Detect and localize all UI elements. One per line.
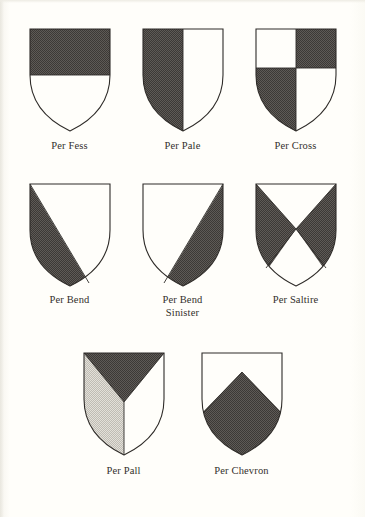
- shield-grid: Per Fess Per Pale: [0, 0, 365, 517]
- per-chevron-caption: Per Chevron: [214, 465, 268, 478]
- shield-row-1: Per Fess Per Pale: [0, 28, 365, 153]
- shield-cell-per-fess: Per Fess: [13, 28, 126, 153]
- shield-cell-per-chevron: Per Chevron: [183, 352, 301, 478]
- shield-cell-per-pall: Per Pall: [65, 352, 183, 478]
- per-saltire-shield: [255, 183, 337, 287]
- per-bend-caption: Per Bend: [50, 294, 90, 307]
- per-fess-shield: [29, 28, 111, 132]
- per-chevron-shield: [201, 352, 283, 456]
- per-fess-chief: [29, 28, 111, 75]
- per-saltire-caption: Per Saltire: [273, 294, 319, 307]
- per-fess-caption: Per Fess: [51, 140, 88, 153]
- shield-cell-per-saltire: Per Saltire: [239, 183, 352, 319]
- per-cross-caption: Per Cross: [275, 140, 317, 153]
- per-cross-shield: [255, 28, 337, 132]
- shield-cell-per-pale: Per Pale: [126, 28, 239, 153]
- shield-cell-per-bend-sinister: Per Bend Sinister: [126, 183, 239, 319]
- shield-row-2: Per Bend Per Bend Sinister: [0, 183, 365, 319]
- per-cross-quarter-2: [296, 28, 337, 68]
- shield-cell-per-bend: Per Bend: [13, 183, 126, 319]
- per-pale-caption: Per Pale: [165, 140, 201, 153]
- per-bend-sinister-shield: [142, 183, 224, 287]
- per-pall-shield: [83, 352, 165, 456]
- per-pale-shield: [142, 28, 224, 132]
- shield-row-3: Per Pall Per Chevron: [0, 352, 365, 478]
- per-bend-sinister-caption: Per Bend Sinister: [163, 294, 203, 319]
- per-pall-caption: Per Pall: [106, 465, 140, 478]
- per-pale-dexter: [142, 28, 183, 132]
- shield-cell-per-cross: Per Cross: [239, 28, 352, 153]
- per-bend-shield: [29, 183, 111, 287]
